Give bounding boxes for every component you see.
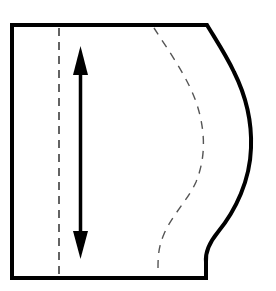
- pattern-diagram: [0, 0, 276, 291]
- pattern-svg: [0, 0, 276, 291]
- background: [0, 0, 276, 291]
